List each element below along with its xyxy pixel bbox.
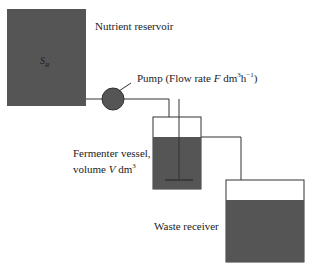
fermenter-unit: dm <box>115 163 132 175</box>
pump-label-prefix: Pump (Flow rate <box>137 72 214 84</box>
pump-pointer-arrow <box>119 83 131 91</box>
pipe-fermenter-waste <box>201 137 241 186</box>
pump-unit2-sup: −1 <box>246 71 253 79</box>
fermenter-line2-prefix: volume <box>73 163 109 175</box>
pump-suffix: ) <box>254 72 258 84</box>
fermenter-liquid <box>153 137 201 189</box>
reservoir-symbol: SR <box>40 54 49 72</box>
waste-label: Waste receiver <box>154 220 219 233</box>
pump-icon <box>102 88 124 110</box>
pump-unit: dm <box>220 72 237 84</box>
fermenter-label: Fermenter vessel, volume V dm3 <box>73 147 151 176</box>
fermenter-unit-sup: 3 <box>132 162 136 170</box>
reservoir-symbol-sub: R <box>45 61 49 69</box>
fermenter-label-line2: volume V dm3 <box>73 160 151 176</box>
pump-label: Pump (Flow rate F dm3h−1) <box>137 69 257 85</box>
reservoir-label: Nutrient reservoir <box>95 20 174 33</box>
fermenter-label-line1: Fermenter vessel, <box>73 147 151 160</box>
waste-liquid <box>226 200 304 262</box>
